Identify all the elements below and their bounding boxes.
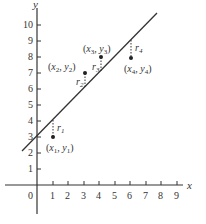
- y-tick-label-10: 10: [23, 19, 33, 30]
- residual-label-r1: r1: [57, 122, 64, 135]
- y-tick-label-5: 5: [28, 99, 33, 110]
- x-tick-label-3: 3: [81, 190, 86, 201]
- x-tick-label-7: 7: [143, 190, 148, 201]
- x-tick-label-6: 6: [127, 190, 132, 201]
- x-tick-label-9: 9: [174, 190, 179, 201]
- x-tick-label-2: 2: [65, 190, 70, 201]
- residual-label-r3: r3: [92, 61, 100, 74]
- point-label-3: (x3, y3): [83, 43, 111, 56]
- point-label-1: (x1, y1): [46, 142, 74, 155]
- point-2: [83, 71, 87, 75]
- point-4: [129, 56, 133, 60]
- x-tick-label-5: 5: [112, 190, 117, 201]
- point-3: [99, 55, 103, 59]
- y-tick-label-9: 9: [28, 35, 33, 46]
- x-tick-label-8: 8: [158, 190, 163, 201]
- fitted-line: [22, 13, 157, 151]
- residual-label-r2: r2: [76, 76, 84, 89]
- y-axis-label: y: [32, 0, 38, 10]
- point-label-4: (x4, y4): [124, 63, 152, 76]
- y-tick-label-8: 8: [28, 51, 33, 62]
- y-tick-label-7: 7: [28, 67, 33, 78]
- y-tick-label-4: 4: [28, 115, 33, 126]
- regression-residual-diagram: 1 2 3 4 5 6 7 8 9 0 1 2 3 4 5 6 7 8 9 10…: [0, 0, 206, 224]
- point-label-2: (x2, y2): [48, 61, 76, 74]
- x-axis-label: x: [186, 179, 192, 191]
- y-tick-label-1: 1: [28, 163, 33, 174]
- y-tick-label-2: 2: [28, 147, 33, 158]
- x-tick-label-1: 1: [50, 190, 55, 201]
- x-tick-label-4: 4: [96, 190, 101, 201]
- residual-label-r4: r4: [135, 42, 143, 55]
- point-1: [51, 135, 55, 139]
- y-tick-label-6: 6: [28, 83, 33, 94]
- origin-label: 0: [28, 190, 33, 201]
